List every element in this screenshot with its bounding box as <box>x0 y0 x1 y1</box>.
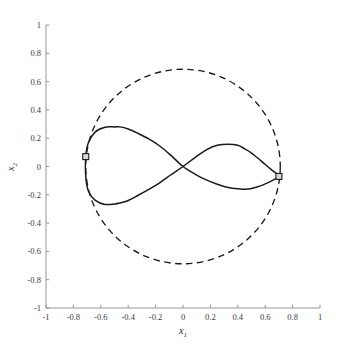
x-tick-label-5: 0 <box>181 312 185 322</box>
y-tick-label-8: -0.6 <box>28 246 41 256</box>
y-tick-label-9: -0.8 <box>28 275 41 285</box>
y-tick-label-1: 0.8 <box>30 48 41 58</box>
y-tick-label-6: -0.2 <box>28 190 41 200</box>
x-tick-label-1: -0.8 <box>67 312 80 322</box>
y-tick-label-4: 0.2 <box>30 133 41 143</box>
x-tick-label-3: -0.4 <box>121 312 135 322</box>
y-tick-label-10: -1 <box>34 303 41 313</box>
x-tick-label-0: -1 <box>42 312 49 322</box>
y-tick-label-7: -0.4 <box>28 218 42 228</box>
x-tick-label-10: 1 <box>318 312 322 322</box>
figure-canvas: -1-0.8-0.6-0.4-0.200.20.40.60.81 10.80.6… <box>0 0 337 344</box>
marker-start-point-left <box>83 154 89 160</box>
plot-background <box>0 0 337 344</box>
marker-end-point-right <box>276 173 282 179</box>
x-tick-label-6: 0.2 <box>205 312 216 322</box>
y-tick-label-0: 1 <box>37 20 41 30</box>
x-tick-label-2: -0.6 <box>94 312 107 322</box>
x-tick-label-8: 0.6 <box>260 312 271 322</box>
axis-label-subscript: 2 <box>11 162 19 166</box>
axis-label-subscript: 1 <box>184 331 188 339</box>
y-tick-label-5: 0 <box>37 162 41 172</box>
x-tick-label-9: 0.8 <box>287 312 298 322</box>
phase-plane-plot: -1-0.8-0.6-0.4-0.200.20.40.60.81 10.80.6… <box>0 0 337 344</box>
y-tick-label-2: 0.6 <box>30 77 41 87</box>
x-tick-label-4: -0.2 <box>149 312 162 322</box>
y-tick-label-3: 0.4 <box>30 105 41 115</box>
x-tick-label-7: 0.4 <box>232 312 243 322</box>
